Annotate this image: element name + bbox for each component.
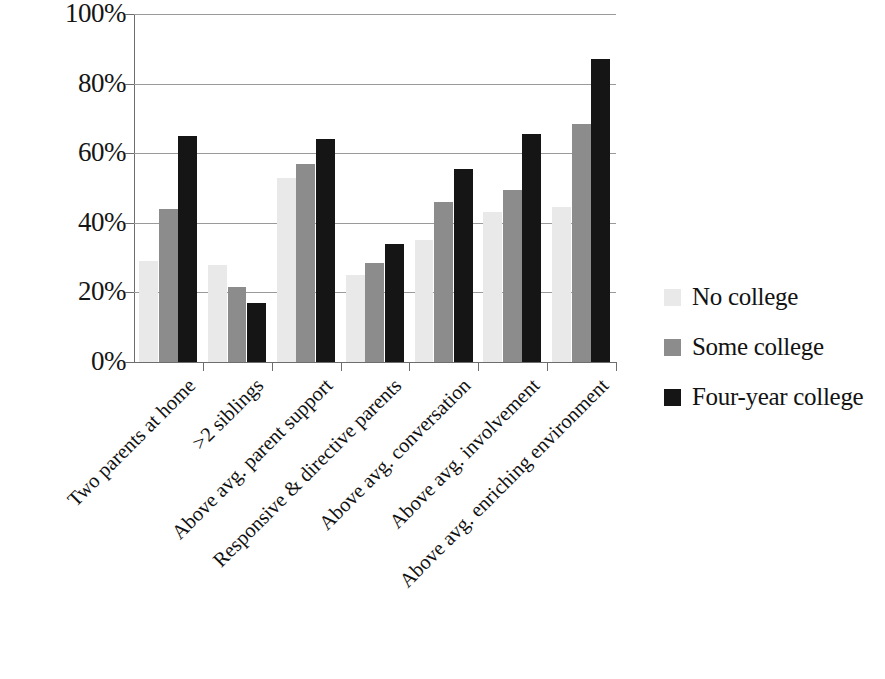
plot-area: [134, 14, 616, 362]
y-axis-tick-label: 40%: [6, 209, 126, 236]
legend-label: Some college: [692, 334, 824, 360]
y-axis-tick-label: 60%: [6, 139, 126, 166]
legend-label: No college: [692, 284, 798, 310]
y-axis-tick-label: 0%: [6, 348, 126, 375]
legend-swatch-icon: [664, 289, 681, 306]
bar: [159, 209, 178, 362]
bar-chart: 100%80%60%40%20%0% Two parents at home>2…: [0, 0, 885, 679]
bar: [522, 134, 541, 362]
bar: [296, 164, 315, 362]
x-axis-tick-mark: [203, 362, 204, 371]
bar: [434, 202, 453, 362]
legend-item: Four-year college: [664, 372, 879, 422]
y-axis-tick-label: 20%: [6, 278, 126, 305]
bar: [228, 287, 247, 362]
y-axis-labels: 100%80%60%40%20%0%: [0, 0, 126, 380]
bar: [454, 169, 473, 362]
bar: [139, 261, 158, 362]
y-axis-tick-label: 80%: [6, 70, 126, 97]
gridline: [134, 153, 616, 154]
x-axis-tick-mark: [409, 362, 410, 371]
bar: [415, 240, 434, 362]
legend-swatch-icon: [664, 339, 681, 356]
bar: [316, 139, 335, 362]
y-axis-tick-mark: [125, 84, 134, 85]
y-axis-tick-mark: [125, 362, 134, 363]
x-axis-tick-mark: [272, 362, 273, 371]
legend-swatch-icon: [664, 389, 681, 406]
bar: [365, 263, 384, 362]
bar: [552, 207, 571, 362]
x-axis-tick-mark: [341, 362, 342, 371]
y-axis-tick-label: 100%: [6, 0, 126, 27]
y-axis-tick-mark: [125, 223, 134, 224]
bar: [483, 212, 502, 362]
legend-item: No college: [664, 272, 879, 322]
bar: [247, 303, 266, 362]
bar: [277, 178, 296, 362]
bar: [572, 124, 591, 362]
gridline: [134, 223, 616, 224]
legend-item: Some college: [664, 322, 879, 372]
y-axis-tick-mark: [125, 153, 134, 154]
x-axis-tick-mark: [616, 362, 617, 371]
gridline: [134, 14, 616, 15]
gridline: [134, 362, 616, 363]
legend-label: Four-year college: [692, 384, 863, 410]
bar: [208, 265, 227, 362]
bar: [346, 275, 365, 362]
bar: [385, 244, 404, 362]
x-axis-tick-mark: [547, 362, 548, 371]
x-axis-tick-mark: [478, 362, 479, 371]
gridline: [134, 84, 616, 85]
bar: [591, 59, 610, 362]
legend: No collegeSome collegeFour-year college: [664, 272, 879, 422]
y-axis-tick-mark: [125, 14, 134, 15]
bar: [178, 136, 197, 362]
y-axis-tick-mark: [125, 292, 134, 293]
bar: [503, 190, 522, 362]
